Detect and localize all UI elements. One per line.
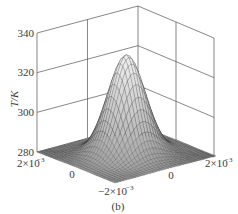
z-tick-300: 300 [18,106,35,118]
right-axis-tick-0: 0 [168,169,174,181]
svg-text:−3: −3 [225,156,233,164]
left-axis-tick-2e-3: 2×10 −3 [17,156,45,169]
z-axis-label: T/K [8,90,20,107]
svg-text:−3: −3 [37,156,45,164]
front-axis-tick-minus-2e-3: −2×10 −3 [98,184,134,197]
surface-plot: T/K 340 320 300 280 2×10 −3 0 −2×10 −3 0… [0,0,238,214]
surface-mesh [37,55,216,183]
svg-text:−3: −3 [126,184,134,192]
left-axis-tick-0: 0 [69,168,75,180]
right-axis-tick-2e-3: 2×10 −3 [205,156,233,169]
figure-caption: (b) [112,200,125,213]
svg-text:−2×10: −2×10 [98,185,127,197]
z-tick-320: 320 [18,66,35,78]
z-tick-340: 340 [18,27,35,39]
